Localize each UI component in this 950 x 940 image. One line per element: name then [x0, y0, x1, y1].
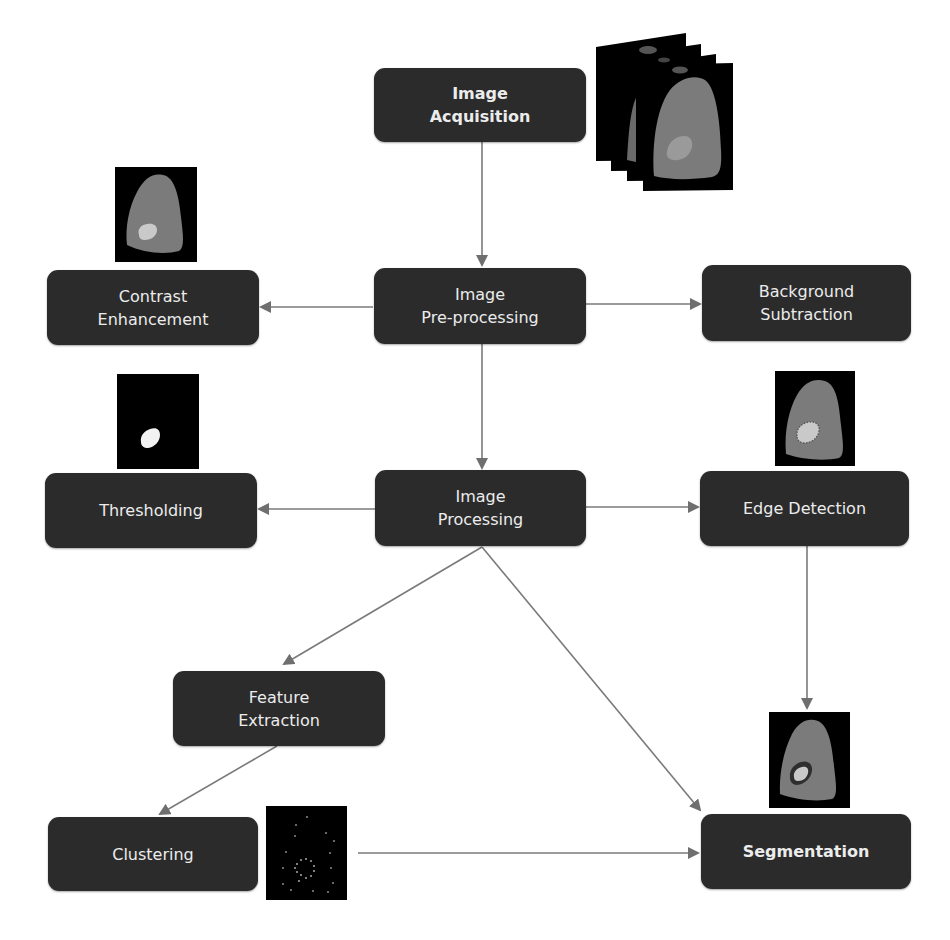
node-label-line: Processing — [438, 508, 523, 531]
node-image-preprocessing: ImagePre-processing — [374, 268, 586, 344]
node-label-line: Thresholding — [99, 499, 203, 522]
node-thresholding: Thresholding — [45, 473, 257, 548]
node-label-line: Subtraction — [760, 303, 853, 326]
node-label-line: Edge Detection — [743, 497, 866, 520]
node-label-line: Image — [452, 82, 508, 105]
node-label-line: Feature — [249, 686, 309, 709]
contrast-enhanced-scan-icon — [115, 167, 197, 262]
node-label-line: Extraction — [238, 709, 320, 732]
node-image-processing: ImageProcessing — [375, 470, 586, 546]
node-label-line: Clustering — [112, 843, 194, 866]
node-label-line: Acquisition — [430, 105, 531, 128]
node-feature-extraction: FeatureExtraction — [173, 671, 385, 746]
clustering-points-icon — [266, 806, 347, 900]
node-label-line: Pre-processing — [421, 306, 538, 329]
node-contrast-enhancement: ContrastEnhancement — [47, 270, 259, 345]
node-edge-detection: Edge Detection — [700, 471, 909, 546]
node-label-line: Image — [455, 485, 505, 508]
flow-diagram: ImageAcquisition ImagePre-processing Con… — [0, 0, 950, 940]
edge-detected-scan-icon — [775, 371, 855, 466]
segmented-scan-icon — [769, 712, 850, 808]
thresholded-mask-icon — [117, 374, 199, 469]
node-label-line: Enhancement — [98, 308, 209, 331]
node-background-subtraction: BackgroundSubtraction — [702, 265, 911, 341]
node-clustering: Clustering — [48, 817, 258, 891]
node-label-line: Contrast — [119, 285, 187, 308]
node-label-line: Segmentation — [743, 840, 870, 863]
node-image-acquisition: ImageAcquisition — [374, 68, 586, 142]
node-label-line: Image — [455, 283, 505, 306]
node-label-line: Background — [759, 280, 854, 303]
node-segmentation: Segmentation — [701, 814, 911, 889]
